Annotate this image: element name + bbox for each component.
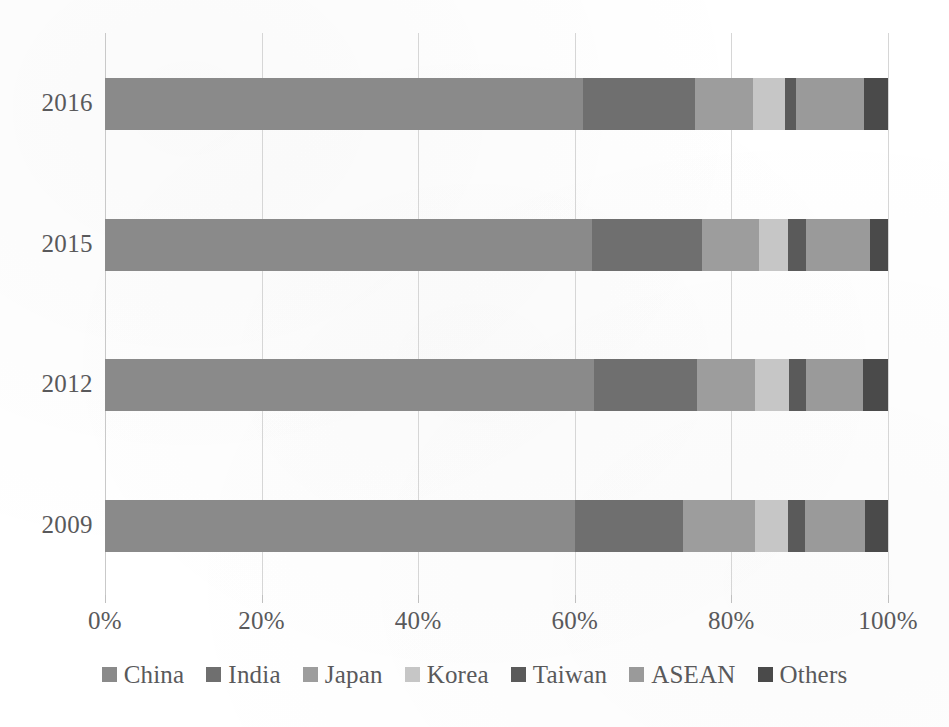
legend-label-china: China [124,662,185,687]
bar-segment-korea-2016[interactable] [753,78,785,130]
bar-segment-others-2015[interactable] [870,219,888,271]
legend-swatch-asean-icon [629,667,644,682]
bar-segment-korea-2015[interactable] [759,219,788,271]
bar-segment-asean-2015[interactable] [806,219,870,271]
axis-tick-80 [731,595,732,603]
x-axis-tick-label-40: 40% [395,608,442,633]
x-axis-tick-label-0: 0% [88,608,122,633]
bar-row-2012[interactable] [105,359,888,411]
legend-swatch-japan-icon [303,667,318,682]
bar-segment-india-2016[interactable] [583,78,695,130]
legend-label-korea: Korea [427,662,489,687]
stacked-bar-chart-figure: 2016 2015 2012 2009 0% 20% 40% 60% 80% 1… [0,0,949,727]
bar-segment-japan-2015[interactable] [702,219,759,271]
bar-segment-china-2016[interactable] [105,78,583,130]
legend-item-taiwan: Taiwan [511,662,607,687]
bar-segment-japan-2016[interactable] [695,78,753,130]
bar-row-2015[interactable] [105,219,888,271]
bar-segment-taiwan-2009[interactable] [788,500,805,552]
plot-area [105,33,888,595]
axis-tick-40 [418,595,419,603]
legend-item-asean: ASEAN [629,662,735,687]
y-axis-label-2016: 2016 [13,90,93,115]
bar-segment-japan-2012[interactable] [697,359,755,411]
x-axis-tick-label-20: 20% [238,608,285,633]
bar-segment-china-2012[interactable] [105,359,594,411]
bar-segment-korea-2012[interactable] [755,359,789,411]
chart-legend: China India Japan Korea Taiwan ASEAN Oth… [0,662,949,687]
bar-segment-taiwan-2012[interactable] [789,359,806,411]
bar-segment-india-2009[interactable] [575,500,683,552]
legend-swatch-taiwan-icon [511,667,526,682]
x-axis-tick-label-100: 100% [858,608,918,633]
axis-tick-100 [888,595,889,603]
bar-segment-india-2015[interactable] [592,219,702,271]
y-axis-label-2015: 2015 [13,231,93,256]
legend-swatch-china-icon [102,667,117,682]
x-axis-tick-label-80: 80% [708,608,755,633]
bar-segment-japan-2009[interactable] [683,500,755,552]
bar-segment-taiwan-2015[interactable] [788,219,806,271]
x-axis-tick-labels: 0% 20% 40% 60% 80% 100% [0,608,949,642]
legend-item-india: India [206,662,280,687]
y-axis-label-2009: 2009 [13,512,93,537]
bar-row-2009[interactable] [105,500,888,552]
bar-segment-asean-2009[interactable] [805,500,865,552]
bar-segment-others-2012[interactable] [863,359,888,411]
legend-item-others: Others [758,662,848,687]
bar-segment-china-2009[interactable] [105,500,575,552]
legend-item-korea: Korea [405,662,489,687]
bar-segment-asean-2012[interactable] [806,359,863,411]
legend-label-japan: Japan [325,662,383,687]
bar-segment-others-2016[interactable] [864,78,888,130]
legend-label-others: Others [780,662,848,687]
legend-label-india: India [228,662,280,687]
y-axis-category-labels: 2016 2015 2012 2009 [0,33,93,595]
legend-swatch-india-icon [206,667,221,682]
legend-label-taiwan: Taiwan [533,662,607,687]
bar-segment-korea-2009[interactable] [755,500,788,552]
gridline-100 [888,33,889,595]
y-axis-label-2012: 2012 [13,371,93,396]
legend-item-china: China [102,662,185,687]
bar-segment-others-2009[interactable] [865,500,888,552]
legend-item-japan: Japan [303,662,383,687]
bar-segment-asean-2016[interactable] [796,78,864,130]
legend-swatch-others-icon [758,667,773,682]
bar-segment-taiwan-2016[interactable] [785,78,796,130]
bar-segment-india-2012[interactable] [594,359,697,411]
axis-tick-0 [105,595,106,603]
bar-segment-china-2015[interactable] [105,219,592,271]
bar-row-2016[interactable] [105,78,888,130]
x-axis-tick-label-60: 60% [551,608,598,633]
legend-label-asean: ASEAN [651,662,735,687]
axis-tick-60 [575,595,576,603]
legend-swatch-korea-icon [405,667,420,682]
axis-tick-20 [262,595,263,603]
